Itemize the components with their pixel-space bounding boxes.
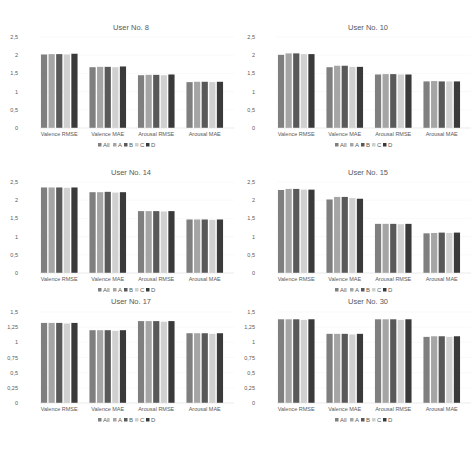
y-tick-label: 2,5 bbox=[247, 34, 255, 40]
x-tick-label: Valence RMSE bbox=[41, 276, 78, 282]
bar bbox=[301, 190, 307, 273]
bar bbox=[286, 53, 292, 128]
bar bbox=[293, 189, 299, 273]
legend-swatch bbox=[361, 143, 365, 147]
bar bbox=[112, 331, 118, 403]
chart-panel: User No. 3000,250,50,7511,251,5Valence R… bbox=[244, 297, 471, 423]
bar bbox=[209, 82, 215, 128]
bar bbox=[334, 197, 340, 273]
x-tick-label: Valence RMSE bbox=[278, 131, 315, 137]
bar bbox=[357, 67, 363, 128]
y-tick-label: 0 bbox=[252, 125, 255, 131]
legend-label: C bbox=[140, 417, 145, 423]
legend-label: C bbox=[377, 417, 382, 423]
legend-label: C bbox=[140, 142, 145, 148]
legend: AllABCD bbox=[98, 287, 156, 293]
bar bbox=[342, 197, 348, 273]
legend-label: A bbox=[118, 287, 122, 293]
legend-swatch bbox=[113, 288, 117, 292]
x-tick-label: Arousal MAE bbox=[189, 276, 221, 282]
x-tick-label: Arousal MAE bbox=[426, 131, 458, 137]
y-tick-label: 1,5 bbox=[10, 70, 18, 76]
x-tick-label: Valence MAE bbox=[91, 406, 124, 412]
bar bbox=[56, 54, 62, 128]
bar bbox=[293, 53, 299, 128]
x-tick-label: Arousal RMSE bbox=[138, 276, 174, 282]
bar bbox=[209, 220, 215, 273]
bar bbox=[146, 75, 152, 128]
bar bbox=[161, 322, 167, 403]
bar bbox=[64, 324, 70, 403]
legend-swatch bbox=[361, 288, 365, 292]
bar bbox=[105, 192, 111, 273]
y-tick-label: 1,25 bbox=[7, 324, 18, 330]
y-tick-label: 0,5 bbox=[247, 370, 255, 376]
chart-title: User No. 17 bbox=[111, 297, 151, 306]
bar bbox=[326, 67, 332, 128]
legend-label: A bbox=[355, 142, 359, 148]
legend-label: All bbox=[340, 287, 347, 293]
chart-title: User No. 15 bbox=[348, 168, 388, 177]
legend-label: All bbox=[340, 417, 347, 423]
bar bbox=[431, 336, 437, 403]
bar bbox=[405, 319, 411, 403]
bar bbox=[446, 233, 452, 273]
chart-panel: User No. 1700,250,50,7511,251,5Valence R… bbox=[7, 297, 234, 423]
legend-swatch bbox=[146, 143, 150, 147]
bar bbox=[71, 187, 77, 273]
bar bbox=[209, 334, 215, 403]
bar bbox=[390, 319, 396, 403]
y-tick-label: 1 bbox=[15, 89, 18, 95]
legend-label: All bbox=[340, 142, 347, 148]
bar bbox=[398, 74, 404, 128]
legend-label: C bbox=[377, 142, 382, 148]
x-tick-label: Valence RMSE bbox=[41, 131, 78, 137]
bar bbox=[120, 330, 126, 403]
y-tick-label: 1,25 bbox=[244, 324, 255, 330]
bar bbox=[398, 224, 404, 273]
legend-label: D bbox=[151, 417, 156, 423]
bar bbox=[97, 330, 103, 403]
legend-label: D bbox=[151, 142, 156, 148]
bar bbox=[153, 321, 159, 403]
bar bbox=[439, 81, 445, 128]
bar bbox=[89, 192, 95, 273]
bar bbox=[375, 74, 381, 128]
bar bbox=[375, 224, 381, 273]
bar bbox=[161, 75, 167, 128]
legend-label: All bbox=[103, 287, 110, 293]
bar bbox=[334, 66, 340, 128]
bar bbox=[112, 193, 118, 273]
bar bbox=[146, 211, 152, 273]
bar bbox=[293, 319, 299, 403]
y-tick-label: 0,25 bbox=[7, 385, 18, 391]
bar bbox=[301, 54, 307, 128]
y-tick-label: 0 bbox=[15, 400, 18, 406]
legend-swatch bbox=[335, 288, 339, 292]
legend-label: D bbox=[388, 417, 393, 423]
legend-label: D bbox=[388, 142, 393, 148]
bar bbox=[64, 54, 70, 128]
y-tick-label: 0,5 bbox=[247, 107, 255, 113]
legend: AllABCD bbox=[335, 142, 393, 148]
legend-label: B bbox=[129, 287, 133, 293]
bar bbox=[105, 67, 111, 128]
bar bbox=[431, 233, 437, 273]
bar bbox=[49, 187, 55, 273]
y-tick-label: 1 bbox=[252, 234, 255, 240]
bar bbox=[186, 219, 192, 273]
y-tick-label: 1,5 bbox=[10, 215, 18, 221]
legend-label: B bbox=[366, 142, 370, 148]
y-tick-label: 0 bbox=[252, 400, 255, 406]
bar bbox=[423, 81, 429, 128]
legend-label: All bbox=[103, 142, 110, 148]
bar bbox=[146, 321, 152, 403]
chart-panel: User No. 800,511,522,5Valence RMSEValenc… bbox=[10, 23, 234, 148]
bar bbox=[186, 333, 192, 403]
legend-swatch bbox=[350, 143, 354, 147]
y-tick-label: 1,5 bbox=[247, 309, 255, 315]
chart-panel: User No. 1000,511,522,5Valence RMSEValen… bbox=[247, 23, 471, 148]
y-tick-label: 0 bbox=[15, 125, 18, 131]
legend-label: B bbox=[366, 417, 370, 423]
bar bbox=[202, 82, 208, 128]
